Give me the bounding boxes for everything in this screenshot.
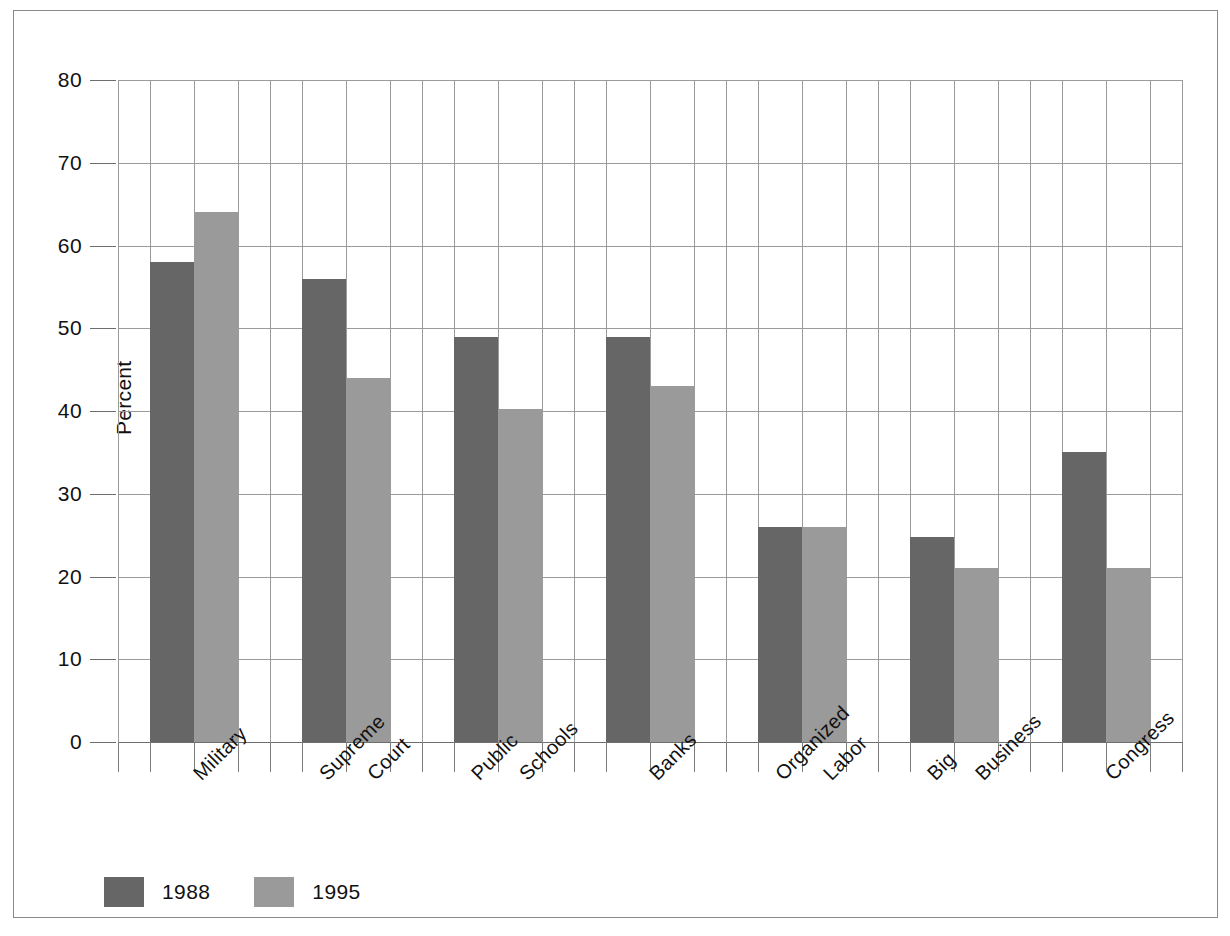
- y-tick-10: [90, 659, 116, 660]
- bar-1988-congress[interactable]: [1062, 452, 1106, 742]
- legend-swatch-1988: [104, 877, 144, 907]
- y-tick-label-40: 40: [22, 400, 82, 421]
- plot-area: Percent 01020304050607080: [118, 80, 1182, 742]
- bar-1988-banks[interactable]: [606, 337, 650, 742]
- gridline-x-12: [574, 80, 575, 742]
- y-tick-60: [90, 246, 116, 247]
- gridline-x-23: [998, 80, 999, 742]
- gridline-x-24: [1030, 80, 1031, 742]
- gridline-x-7: [390, 80, 391, 742]
- bar-1988-big-business[interactable]: [910, 537, 954, 742]
- bar-1995-military[interactable]: [194, 212, 238, 742]
- legend-swatch-1995: [254, 877, 294, 907]
- gridline-x-11: [542, 80, 543, 742]
- y-tick-40: [90, 411, 116, 412]
- y-tick-80: [90, 80, 116, 81]
- gridline-x-20: [878, 80, 879, 742]
- gridline-x-3: [238, 80, 239, 742]
- gridline-x-15: [694, 80, 695, 742]
- y-tick-20: [90, 577, 116, 578]
- bar-1995-big-business[interactable]: [954, 568, 998, 742]
- bar-1988-public-schools[interactable]: [454, 337, 498, 742]
- y-tick-label-70: 70: [22, 152, 82, 173]
- y-tick-0: [90, 742, 116, 743]
- y-tick-label-0: 0: [22, 731, 82, 752]
- y-tick-label-80: 80: [22, 69, 82, 90]
- y-tick-70: [90, 163, 116, 164]
- legend-item-1988[interactable]: 1988: [104, 877, 210, 907]
- figure: Percent 01020304050607080 MilitarySuprem…: [0, 0, 1230, 936]
- legend-item-1995[interactable]: 1995: [254, 877, 360, 907]
- bar-1995-congress[interactable]: [1106, 568, 1150, 742]
- gridline-x-0: [118, 80, 119, 742]
- gridline-x-8: [422, 80, 423, 742]
- y-tick-50: [90, 328, 116, 329]
- gridline-x-19: [846, 80, 847, 742]
- bar-1995-banks[interactable]: [650, 386, 694, 742]
- bar-1988-supreme-court[interactable]: [302, 279, 346, 742]
- gridline-x-28: [1182, 80, 1183, 742]
- bar-1995-public-schools[interactable]: [498, 409, 542, 742]
- legend: 19881995: [104, 872, 405, 912]
- gridline-x-27: [1150, 80, 1151, 742]
- y-axis-title: Percent: [112, 361, 136, 435]
- y-tick-label-10: 10: [22, 648, 82, 669]
- bar-1995-supreme-court[interactable]: [346, 378, 390, 742]
- legend-label-1995: 1995: [312, 880, 360, 904]
- y-tick-label-60: 60: [22, 235, 82, 256]
- gridline-x-4: [270, 80, 271, 742]
- y-tick-label-20: 20: [22, 566, 82, 587]
- x-axis-category-labels: MilitarySupremeCourtPublicSchoolsBanksOr…: [118, 762, 1182, 872]
- y-tick-30: [90, 494, 116, 495]
- gridline-x-16: [726, 80, 727, 742]
- y-tick-label-50: 50: [22, 317, 82, 338]
- y-tick-label-30: 30: [22, 483, 82, 504]
- legend-label-1988: 1988: [162, 880, 210, 904]
- bar-1988-organized-labor[interactable]: [758, 527, 802, 742]
- x-tick-28: [1182, 742, 1183, 772]
- bar-1988-military[interactable]: [150, 262, 194, 742]
